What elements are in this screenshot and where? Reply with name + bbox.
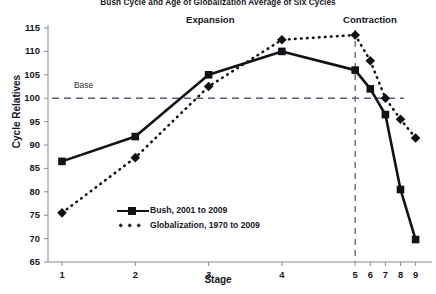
data-point-marker: [132, 133, 140, 141]
data-point-marker: [365, 56, 375, 66]
data-point-marker: [351, 66, 359, 74]
data-point-marker: [381, 93, 391, 103]
legend-item-globalization: Globalization, 1970 to 2009: [117, 218, 260, 233]
data-point-marker: [57, 208, 67, 218]
data-point-marker: [350, 30, 360, 40]
plot-area: [0, 0, 436, 294]
data-point-marker: [397, 186, 405, 194]
data-point-marker: [412, 236, 420, 244]
data-point-marker: [205, 71, 213, 79]
legend-key-solid-square-icon: [117, 205, 149, 217]
series-line-1: [62, 35, 416, 213]
legend-label-globalization: Globalization, 1970 to 2009: [150, 218, 260, 233]
legend-key-dotted-diamond-icon: [117, 220, 149, 232]
data-point-marker: [367, 85, 375, 93]
data-point-marker: [278, 48, 286, 56]
data-point-marker: [58, 158, 66, 166]
legend-label-bush: Bush, 2001 to 2009: [150, 203, 227, 218]
data-point-marker: [382, 111, 390, 119]
chart-legend: Bush, 2001 to 2009 Globalization, 1970 t…: [117, 203, 260, 233]
chart-container: Bush Cycle and Age of Globalization Aver…: [0, 0, 436, 294]
legend-item-bush: Bush, 2001 to 2009: [117, 203, 260, 218]
